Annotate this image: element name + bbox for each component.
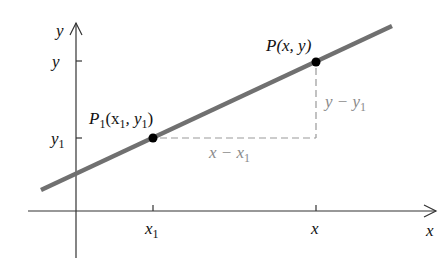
vertical-difference-label: y − y1 [323, 92, 366, 114]
y-tick-label-y: y [50, 52, 60, 71]
x-tick-label-x1: x1 [144, 219, 159, 241]
point-p-label: P(x, y) [265, 36, 312, 55]
x-axis-label: x [425, 221, 434, 240]
y-tick-label-y1: y1 [49, 129, 65, 151]
point-p1 [149, 134, 158, 143]
point-p1-label: P1(x1, y1) [88, 109, 153, 131]
x-tick-label-x: x [310, 219, 319, 238]
y-axis-label: y [54, 21, 64, 40]
point-p [312, 58, 321, 67]
line-through-two-points-diagram: y x y y1 x1 x P1(x1, y1) P(x, y) x − x1 … [0, 0, 448, 273]
horizontal-difference-label: x − x1 [208, 143, 250, 165]
